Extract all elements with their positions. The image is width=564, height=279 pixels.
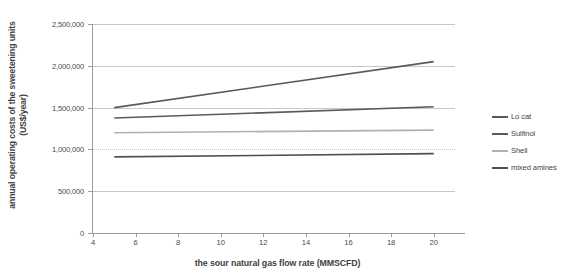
legend-item[interactable]: mixed amines <box>492 159 564 176</box>
x-tick-label: 20 <box>419 238 449 247</box>
x-tick-mark <box>178 233 179 237</box>
y-tick-label: 2,500,000 <box>0 20 84 29</box>
legend-label: mixed amines <box>511 163 557 172</box>
x-tick-label: 6 <box>121 238 151 247</box>
y-tick-mark <box>88 149 93 150</box>
legend-item[interactable]: Shell <box>492 142 564 159</box>
legend-color-swatch <box>492 150 508 152</box>
y-tick-label: 500,000 <box>0 187 84 196</box>
x-tick-label: 8 <box>163 238 193 247</box>
y-tick-mark <box>88 24 93 25</box>
x-tick-label: 18 <box>376 238 406 247</box>
y-tick-mark <box>88 191 93 192</box>
chart-container: annual operating costs of the sweetening… <box>0 0 564 279</box>
legend-label: Lo cat <box>511 112 531 121</box>
legend-color-swatch <box>492 116 508 118</box>
x-tick-mark <box>93 233 94 237</box>
legend-item[interactable]: Sulfinol <box>492 125 564 142</box>
chart-legend: Lo catSulfinolShellmixed amines <box>492 108 564 176</box>
x-tick-mark <box>434 233 435 237</box>
x-axis-line <box>92 233 465 234</box>
legend-color-swatch <box>492 133 508 135</box>
y-tick-label: 0 <box>0 229 84 238</box>
y-axis-tick-labels: 0500,0001,000,0001,500,0002,000,0002,500… <box>0 24 88 233</box>
legend-label: Sulfinol <box>511 129 535 138</box>
x-axis-title: the sour natural gas flow rate (MMSCFD) <box>90 258 465 268</box>
legend-item[interactable]: Lo cat <box>492 108 564 125</box>
x-tick-label: 4 <box>78 238 108 247</box>
series-line <box>114 62 433 108</box>
y-tick-mark <box>88 108 93 109</box>
x-axis-tick-labels: 468101214161820 <box>0 238 564 252</box>
series-line <box>114 107 433 118</box>
legend-label: Shell <box>511 146 527 155</box>
x-tick-mark <box>263 233 264 237</box>
x-tick-mark <box>349 233 350 237</box>
x-tick-mark <box>136 233 137 237</box>
x-tick-label: 10 <box>206 238 236 247</box>
y-tick-label: 1,500,000 <box>0 104 84 113</box>
y-tick-mark <box>88 66 93 67</box>
legend-color-swatch <box>492 167 508 169</box>
series-line <box>114 130 433 133</box>
x-tick-mark <box>391 233 392 237</box>
x-tick-label: 16 <box>334 238 364 247</box>
x-tick-label: 14 <box>291 238 321 247</box>
series-lines <box>93 24 455 233</box>
series-line <box>114 154 433 157</box>
x-tick-mark <box>306 233 307 237</box>
x-tick-mark <box>221 233 222 237</box>
y-tick-label: 1,000,000 <box>0 145 84 154</box>
y-tick-label: 2,000,000 <box>0 62 84 71</box>
x-tick-label: 12 <box>248 238 278 247</box>
